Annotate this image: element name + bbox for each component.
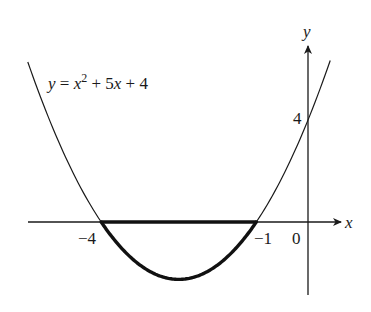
x-axis-label: x bbox=[344, 213, 353, 232]
x-tick-minus4: −4 bbox=[78, 229, 97, 248]
y-tick-4: 4 bbox=[293, 109, 302, 128]
equation-label: y = x2 + 5x + 4 bbox=[46, 71, 148, 93]
x-tick-0: 0 bbox=[292, 229, 301, 248]
x-tick-minus1: −1 bbox=[254, 229, 272, 248]
y-axis-label: y bbox=[301, 22, 311, 41]
graph: x y −4 −1 0 4 y = x2 + 5x + 4 bbox=[0, 0, 371, 312]
parabola-bold-segment bbox=[101, 222, 256, 279]
parabola-curve bbox=[28, 60, 330, 279]
